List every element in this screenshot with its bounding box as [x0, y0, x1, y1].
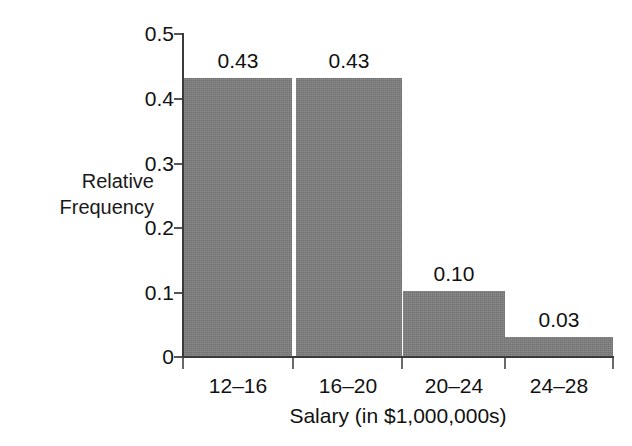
bar-value-16-20: 0.43 — [296, 50, 402, 71]
x-axis-title: Salary (in $1,000,000s) — [182, 404, 614, 428]
bar-value-24-28: 0.03 — [505, 309, 613, 330]
bar-value-12-16: 0.43 — [184, 50, 292, 71]
bar-24-28 — [505, 337, 613, 356]
x-tick-mark-1 — [292, 358, 294, 369]
y-tick-label-0.5: 0.5 — [118, 23, 174, 44]
x-tick-label-20-24: 20–24 — [403, 374, 505, 398]
bar-16-20 — [296, 78, 402, 356]
y-tick-label-0.2: 0.2 — [118, 217, 174, 238]
y-tick-label-0.4: 0.4 — [118, 88, 174, 109]
x-tick-mark-3 — [504, 358, 506, 369]
y-tick-label-0: 0 — [118, 346, 174, 367]
x-tick-label-12-16: 12–16 — [184, 374, 292, 398]
y-axis-line — [182, 33, 184, 358]
x-axis-line — [182, 356, 614, 358]
x-tick-mark-4 — [612, 358, 614, 369]
x-tick-mark-0 — [182, 358, 184, 369]
bar-20-24 — [403, 291, 505, 356]
x-tick-label-16-20: 16–20 — [294, 374, 402, 398]
y-axis-title: Relative Frequency — [14, 168, 154, 220]
bar-12-16 — [184, 78, 292, 356]
bar-value-20-24: 0.10 — [403, 263, 505, 284]
y-tick-label-0.3: 0.3 — [118, 153, 174, 174]
relative-frequency-histogram: Relative Frequency 0.5 0.4 0.3 0.2 0.1 0… — [0, 0, 632, 446]
y-tick-label-0.1: 0.1 — [118, 282, 174, 303]
x-tick-label-24-28: 24–28 — [505, 374, 613, 398]
x-tick-mark-2 — [401, 358, 403, 369]
